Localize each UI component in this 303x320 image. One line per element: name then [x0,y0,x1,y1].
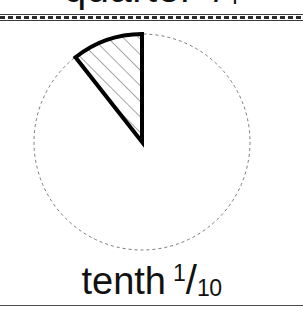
fraction-label: tenth1/10 [0,258,303,302]
fraction-word: tenth [81,260,166,302]
clipped-previous-label: quarter1/4 [0,0,303,14]
fraction-circle-svg [0,24,303,262]
fraction-denominator: 10 [197,275,222,301]
card-bottom-rule [0,305,303,306]
clipped-previous-fraction: 1/4 [200,0,239,10]
cut-line-dashes [0,16,303,19]
fraction-flashcard: quarter1/4 tenth1/10 [0,0,303,320]
fraction-numerator: 1 [173,260,186,286]
clipped-previous-denominator: 4 [225,0,239,9]
fraction-circle-diagram [0,24,303,262]
shaded-sector [76,34,143,142]
clipped-previous-slash: / [214,0,225,10]
cut-line-rule-upper [0,14,303,15]
cut-line-top [0,14,303,21]
cut-line-rule-lower [0,20,303,21]
fraction-slash: / [186,258,197,302]
fraction-notation: 1/10 [173,280,222,297]
clipped-previous-word: quarter [64,0,194,10]
